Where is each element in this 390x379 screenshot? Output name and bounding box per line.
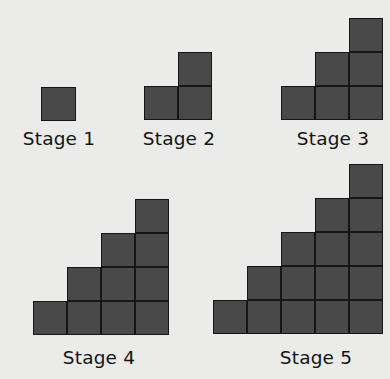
square	[349, 198, 383, 232]
square	[144, 86, 178, 120]
square	[349, 232, 383, 266]
square	[315, 300, 349, 334]
square	[315, 232, 349, 266]
square	[213, 300, 247, 334]
square	[67, 301, 101, 335]
square	[178, 86, 212, 120]
square	[33, 301, 67, 335]
square	[315, 52, 349, 86]
square	[281, 300, 315, 334]
square	[247, 300, 281, 334]
square	[315, 86, 349, 120]
square	[41, 87, 76, 122]
stage-1-label: Stage 1	[23, 130, 96, 149]
square	[349, 86, 383, 120]
square	[135, 267, 169, 301]
stage-2-label: Stage 2	[143, 130, 216, 149]
stage-3-label: Stage 3	[297, 130, 370, 149]
square	[349, 300, 383, 334]
square	[101, 301, 135, 335]
square	[349, 52, 383, 86]
square	[135, 301, 169, 335]
square	[135, 199, 169, 233]
square	[281, 86, 315, 120]
square	[101, 267, 135, 301]
square	[315, 266, 349, 300]
square	[349, 266, 383, 300]
square	[178, 52, 212, 86]
square	[315, 198, 349, 232]
square	[135, 233, 169, 267]
square	[281, 266, 315, 300]
square	[67, 267, 101, 301]
square	[349, 164, 383, 198]
square	[281, 232, 315, 266]
stage-5-label: Stage 5	[280, 349, 353, 368]
square	[349, 18, 383, 52]
stage-4-label: Stage 4	[63, 349, 136, 368]
square	[247, 266, 281, 300]
square	[101, 233, 135, 267]
